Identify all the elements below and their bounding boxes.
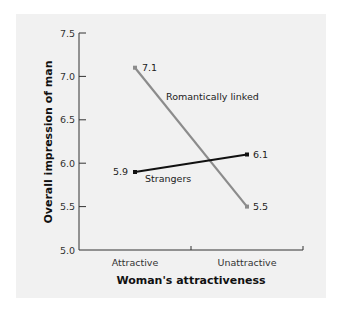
y-tick-label: 6.0 bbox=[60, 158, 75, 169]
y-tick-label: 7.5 bbox=[60, 28, 75, 39]
series-strangers bbox=[133, 153, 249, 175]
data-point bbox=[245, 205, 249, 209]
y-axis-title: Overall impression of man bbox=[42, 60, 55, 223]
data-label: 6.1 bbox=[253, 149, 268, 160]
x-category-label: Attractive bbox=[112, 257, 159, 268]
data-label: 5.5 bbox=[253, 201, 268, 212]
y-tick-label: 7.0 bbox=[60, 71, 75, 82]
series-label-strangers: Strangers bbox=[145, 173, 191, 184]
x-category-label: Unattractive bbox=[217, 257, 276, 268]
y-tick-label: 5.0 bbox=[60, 245, 75, 256]
series-romantically-linked bbox=[133, 66, 249, 209]
x-axis-title: Woman's attractiveness bbox=[116, 274, 266, 287]
data-point bbox=[133, 66, 137, 70]
data-point bbox=[133, 170, 137, 174]
y-ticks bbox=[79, 33, 86, 207]
line-chart: 7.5 7.0 6.5 6.0 5.5 5.0 Overall impressi… bbox=[0, 0, 340, 315]
y-tick-label: 6.5 bbox=[60, 114, 75, 125]
data-label: 7.1 bbox=[142, 62, 157, 73]
data-point bbox=[245, 153, 249, 157]
data-label: 5.9 bbox=[113, 166, 128, 177]
series-label-romantically-linked: Romantically linked bbox=[166, 91, 259, 102]
y-tick-label: 5.5 bbox=[60, 201, 75, 212]
